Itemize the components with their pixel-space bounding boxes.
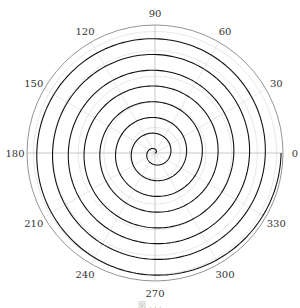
angular-gridline <box>44 153 155 217</box>
angular-gridline <box>155 42 219 153</box>
angular-tick-label: 300 <box>215 269 234 280</box>
figure-caption: 図 . . . <box>0 299 300 308</box>
angular-tick-label: 270 <box>145 288 164 299</box>
spiral-series <box>37 39 281 275</box>
angular-gridline <box>91 153 155 264</box>
angular-tick-label: 0 <box>292 148 298 159</box>
polar-spiral-chart: 0306090120150180210240270300330 <box>0 0 300 300</box>
angular-tick-label: 150 <box>24 78 43 89</box>
angular-tick-label: 60 <box>219 26 232 37</box>
angular-gridline <box>155 153 219 264</box>
angular-tick-label: 120 <box>75 26 94 37</box>
angular-tick-label: 330 <box>267 218 286 229</box>
angular-tick-label: 210 <box>24 218 43 229</box>
angular-gridline <box>44 89 155 153</box>
angular-tick-label: 180 <box>5 148 24 159</box>
angular-tick-label: 30 <box>270 78 283 89</box>
angular-tick-label: 90 <box>149 8 162 19</box>
angular-tick-label: 240 <box>75 269 94 280</box>
